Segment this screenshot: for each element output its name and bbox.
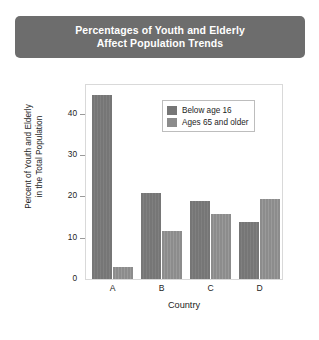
x-axis-tick-label: A (110, 283, 116, 293)
chart-title-line-2: Affect Population Trends (97, 37, 224, 49)
x-axis-title: Country (85, 300, 283, 310)
legend-swatch-icon (167, 118, 177, 127)
x-axis-tick-label: C (207, 283, 213, 293)
bar (190, 201, 210, 279)
x-axis-tick-label: D (256, 283, 262, 293)
y-axis-tick-label: 30 (68, 149, 77, 159)
bar (239, 222, 259, 279)
bar (162, 231, 182, 279)
bar-group (92, 85, 133, 279)
chart-title-banner: Percentages of Youth and Elderly Affect … (15, 16, 305, 58)
y-axis-tick-label: 20 (68, 190, 77, 200)
bar (92, 95, 112, 279)
chart-title-line-1: Percentages of Youth and Elderly (75, 24, 245, 36)
legend-item: Below age 16 (167, 104, 248, 116)
bar (260, 199, 280, 279)
legend-swatch-icon (167, 106, 177, 115)
bar (113, 267, 133, 279)
bar (141, 193, 161, 279)
x-axis: ABCD (86, 283, 282, 299)
bar (211, 214, 231, 279)
y-axis-tick-label: 0 (72, 273, 77, 283)
chart-legend: Below age 16Ages 65 and older (162, 100, 255, 132)
legend-item: Ages 65 and older (167, 116, 248, 128)
legend-item-label: Ages 65 and older (182, 118, 248, 127)
chart-title: Percentages of Youth and Elderly Affect … (75, 24, 245, 51)
y-axis-tick-label: 10 (68, 232, 77, 242)
legend-item-label: Below age 16 (182, 106, 232, 115)
y-axis-tick-label: 40 (68, 108, 77, 118)
y-axis: 010203040 (0, 84, 85, 280)
bar-chart-figure: Percent of Youth and Elderly in the Tota… (0, 62, 319, 340)
x-axis-tick-label: B (159, 283, 165, 293)
